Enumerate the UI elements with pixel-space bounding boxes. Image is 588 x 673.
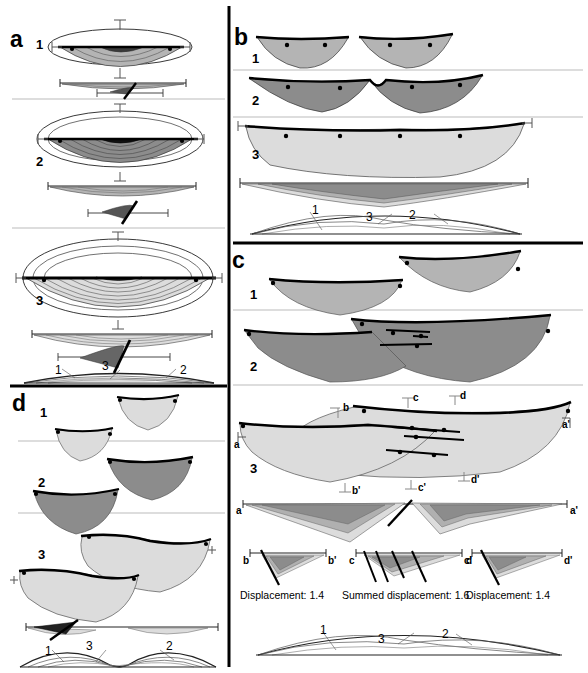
panel-b-profile (240, 178, 528, 207)
panel-letter-c: c (232, 249, 245, 272)
section-bb-right-label: b' (328, 556, 337, 566)
panel-a-profile-num-3: 3 (102, 360, 109, 372)
panel-c-section-dd (472, 549, 562, 585)
panel-letter-a: a (10, 28, 23, 51)
panel-c-stage-label-1: 1 (250, 288, 257, 301)
panel-a-stage2-map (37, 104, 204, 181)
panel-c-section-aa (243, 500, 567, 542)
panel-a-stage-label-3: 3 (36, 294, 43, 307)
panel-c-profile-num-1: 1 (320, 624, 327, 636)
panel-b-profile-num-2: 2 (409, 209, 416, 221)
panel-c-summary-profile (256, 631, 562, 655)
panel-d-profile-num-3: 3 (86, 640, 93, 652)
panel-b-stage-label-2: 2 (252, 94, 259, 107)
panel-d-stage-label-2: 2 (38, 476, 45, 489)
section-label-d: d (460, 391, 466, 401)
panel-a-profile-num-2: 2 (180, 364, 187, 376)
panel-b-graphic (238, 34, 532, 234)
panel-d-graphic (10, 395, 218, 668)
panel-b-profile-num-1: 1 (312, 204, 319, 216)
panel-d-profile (26, 620, 218, 640)
panel-b-stage-label-3: 3 (252, 148, 259, 161)
panel-c-stage1 (269, 251, 521, 315)
panel-b-stage2 (249, 75, 483, 113)
panel-a-stage1-map (48, 20, 192, 78)
panel-d-stage2 (33, 457, 193, 534)
panel-a-stage2-cross (88, 201, 168, 224)
panel-c-stage3 (238, 396, 571, 492)
panel-b-stage3 (238, 118, 532, 178)
displacement-caption-dd: Displacement: 1.4 (466, 590, 550, 601)
figure-root: a 1 2 3 1 3 2 b 1 2 3 1 3 2 c 1 2 3 a a'… (0, 0, 588, 673)
panel-c-profile-num-3: 3 (378, 633, 385, 645)
panel-a-graphic (16, 20, 222, 383)
displacement-caption-bb: Displacement: 1.4 (240, 590, 324, 601)
section-label-b-prime: b' (352, 486, 361, 496)
section-aa-right-label: a' (570, 506, 578, 516)
panel-b-stage1 (256, 34, 453, 68)
panel-d-profile-num-2: 2 (166, 640, 173, 652)
panel-a-stage-label-2: 2 (36, 155, 43, 168)
panel-d-stage-label-3: 3 (38, 548, 45, 561)
section-label-c-prime: c' (418, 483, 426, 493)
panel-letter-b: b (234, 26, 248, 49)
panel-a-stage3-map (16, 232, 222, 329)
panel-c-section-cc (356, 549, 462, 582)
panel-a-stage-label-1: 1 (36, 38, 43, 51)
section-cc-left-label: c (349, 556, 355, 566)
displacement-caption-cc: Summed displacement: 1.6 (342, 590, 469, 601)
panel-d-stage1 (55, 395, 179, 461)
panel-letter-d: d (12, 392, 26, 415)
panel-b-profile-num-3: 3 (366, 211, 373, 223)
panel-a-stage1-profile (60, 79, 186, 89)
section-aa-left-label: a (236, 506, 242, 516)
section-label-a-prime: a' (562, 420, 570, 430)
panel-a-stage3-profile (32, 330, 212, 347)
section-dd-right-label: d' (564, 556, 573, 566)
panel-a-stage2-profile (48, 182, 196, 196)
panel-d-stage-label-1: 1 (40, 406, 47, 419)
section-label-b: b (343, 403, 349, 413)
panel-c-stage2 (244, 315, 551, 382)
section-label-d-prime: d' (471, 475, 480, 485)
panel-b-stage-label-1: 1 (252, 52, 259, 65)
figure-canvas (0, 0, 588, 673)
panel-c-profile-num-2: 2 (442, 628, 449, 640)
panel-c-stage-label-3: 3 (250, 462, 257, 475)
section-label-c: c (413, 393, 419, 403)
section-bb-left-label: b (243, 556, 249, 566)
panel-c-stage-label-2: 2 (250, 360, 257, 373)
section-label-a: a (234, 440, 240, 450)
panel-c-section-bb (250, 549, 326, 585)
panel-a-profile-num-1: 1 (55, 364, 62, 376)
panel-b-summary-profile (250, 212, 522, 234)
section-dd-left-label: d (466, 556, 472, 566)
panel-d-profile-num-1: 1 (45, 645, 52, 657)
